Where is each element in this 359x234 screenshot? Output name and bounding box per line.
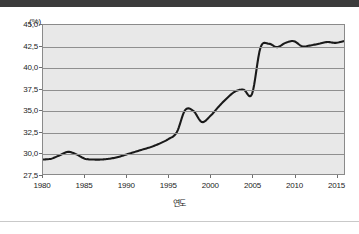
y-axis-tick-mark [39,110,42,111]
gridline-horizontal [43,154,344,155]
y-axis-tick-label: 27,5 [0,171,38,180]
plot-area [42,24,345,175]
bottom-divider [0,221,359,222]
x-axis-tick-mark [252,175,253,178]
y-axis-tick-mark [39,89,42,90]
gridline-horizontal [43,47,344,48]
y-axis-tick-mark [39,24,42,25]
x-axis-title: 연도 [0,197,359,208]
y-axis-tick-label: 40,0 [0,63,38,72]
x-axis-tick-mark [84,175,85,178]
top-scan-bar [0,0,359,7]
y-axis-tick-mark [39,153,42,154]
x-axis-tick-mark [42,175,43,178]
x-axis-tick-mark [295,175,296,178]
x-axis-tick-label: 1980 [34,181,51,190]
x-axis-tick-mark [126,175,127,178]
x-axis-tick-label: 1985 [76,181,93,190]
line-chart: (%) 45,042,540,037,535,032,530,027,5 198… [0,7,359,217]
gridline-horizontal [43,90,344,91]
gridline-horizontal [43,133,344,134]
y-axis-tick-mark [39,132,42,133]
x-axis-tick-label: 2005 [244,181,261,190]
x-axis-tick-label: 2010 [286,181,303,190]
y-axis-tick-label: 35,0 [0,106,38,115]
x-axis-tick-mark [168,175,169,178]
y-axis-tick-mark [39,67,42,68]
gridline-horizontal [43,68,344,69]
x-axis-tick-mark [210,175,211,178]
x-axis-tick-label: 1995 [160,181,177,190]
y-axis-tick-label: 37,5 [0,84,38,93]
chart-page: (%) 45,042,540,037,535,032,530,027,5 198… [0,0,359,234]
series-line-ratio [43,41,344,160]
x-axis-tick-label: 2015 [328,181,345,190]
y-axis-tick-mark [39,46,42,47]
y-axis-tick-label: 32,5 [0,127,38,136]
y-axis-tick-label: 42,5 [0,41,38,50]
y-axis-tick-label: 45,0 [0,20,38,29]
y-axis-tick-label: 30,0 [0,149,38,158]
x-axis-tick-label: 2000 [202,181,219,190]
x-axis-tick-label: 1990 [118,181,135,190]
gridline-horizontal [43,111,344,112]
x-axis-tick-mark [337,175,338,178]
